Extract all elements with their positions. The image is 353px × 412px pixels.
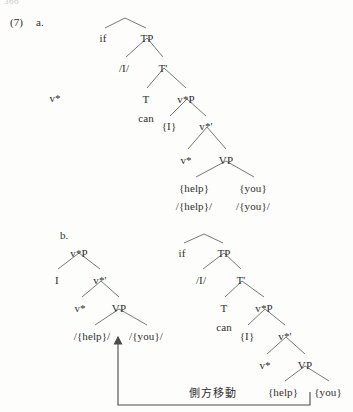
page-number: 366 [4, 0, 19, 6]
node-a-you-phon: /{you}/ [236, 201, 270, 212]
node-br-i-set: {I} [240, 331, 255, 342]
node-br-i-phon: /I/ [196, 275, 206, 286]
node-a-i-phon: /I/ [119, 63, 129, 74]
node-br-vp: VP [298, 360, 312, 371]
example-sublabel-b: b. [60, 229, 68, 241]
node-bl-vstar: v* [74, 303, 85, 314]
node-a-tp: TP [140, 33, 153, 44]
node-a-vstarbar: v*' [199, 121, 212, 132]
node-br-tbar: T' [237, 275, 246, 286]
node-a-tbar: T' [159, 63, 168, 74]
example-number: (7) [10, 16, 23, 28]
node-br-you-set: {you} [314, 387, 342, 398]
node-a-t: T [143, 94, 150, 105]
node-bl-i: I [55, 275, 59, 286]
node-bl-vstarbar: v*' [93, 275, 106, 286]
node-floating-vstar: v* [49, 93, 60, 104]
node-a-vstar: v* [180, 155, 191, 166]
node-bl-vstarp: v*P [70, 248, 87, 259]
node-a-i-set: {I} [162, 121, 177, 132]
node-br-t: T [221, 303, 228, 314]
node-a-help-phon: /{help}/ [176, 201, 212, 212]
node-bl-help-phon: /{help}/ [74, 331, 110, 342]
page-canvas: 366 [0, 0, 353, 412]
node-br-vstarbar: v*' [278, 331, 291, 342]
node-bl-vp: VP [112, 303, 126, 314]
node-a-vp: VP [219, 155, 233, 166]
node-a-vstarp: v*P [177, 94, 194, 105]
node-a-you-set: {you} [239, 183, 267, 194]
example-sublabel-a: a. [36, 16, 44, 28]
node-br-tp: TP [217, 248, 230, 259]
node-br-can: can [216, 322, 232, 333]
node-bl-you-phon: /{you}/ [129, 331, 163, 342]
node-br-vstar: v* [259, 360, 270, 371]
node-br-vstarp: v*P [255, 303, 272, 314]
movement-annotation-label: 側方移動 [189, 384, 237, 400]
node-a-if: if [100, 33, 107, 44]
node-br-if: if [179, 248, 186, 259]
node-br-help-set: {help} [268, 387, 298, 398]
node-a-can: can [138, 113, 154, 124]
node-a-help-set: {help} [179, 183, 209, 194]
